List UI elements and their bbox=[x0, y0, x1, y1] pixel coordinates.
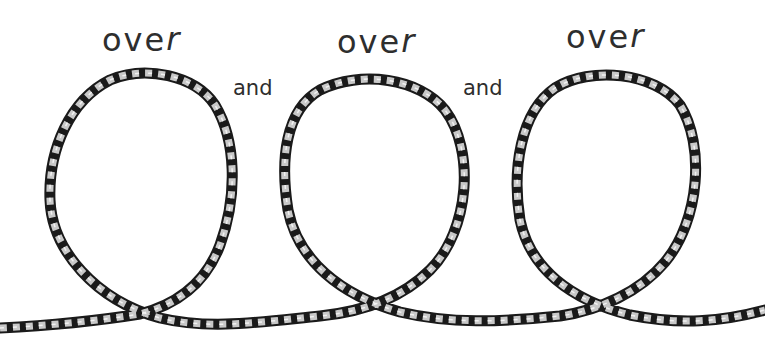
label-over-3-text: ove bbox=[566, 18, 630, 56]
label-over-1: over bbox=[102, 24, 181, 56]
diagram-canvas: over and over and over bbox=[0, 0, 765, 347]
label-and-2: and bbox=[463, 78, 503, 99]
label-over-1-text: ove bbox=[102, 21, 166, 59]
label-over-2-r: r bbox=[401, 25, 416, 57]
label-and-1: and bbox=[233, 78, 273, 99]
cord bbox=[0, 73, 765, 328]
label-over-3: over bbox=[566, 21, 645, 53]
label-over-2-text: ove bbox=[337, 23, 401, 61]
label-over-2: over bbox=[337, 26, 416, 58]
label-over-3-r: r bbox=[630, 20, 645, 52]
label-over-1-r: r bbox=[166, 23, 181, 55]
